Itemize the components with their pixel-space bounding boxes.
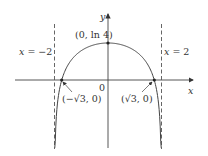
origin-label: 0: [99, 83, 105, 93]
leader-right: [142, 82, 152, 92]
graph-canvas: [0, 0, 208, 156]
asymptote-left-label: x = −2: [19, 47, 52, 57]
root-left-label: (−√3, 0): [62, 94, 102, 104]
point-root-left: [60, 78, 63, 81]
leader-left: [63, 82, 72, 92]
y-axis-label: y: [100, 12, 105, 22]
root-right-label: (√3, 0): [121, 94, 153, 104]
point-max-label: (0, ln 4): [75, 30, 113, 40]
point-max: [106, 41, 109, 44]
asymptote-right-label: x = 2: [164, 47, 189, 57]
point-root-right: [153, 78, 156, 81]
x-axis-label: x: [188, 86, 193, 96]
